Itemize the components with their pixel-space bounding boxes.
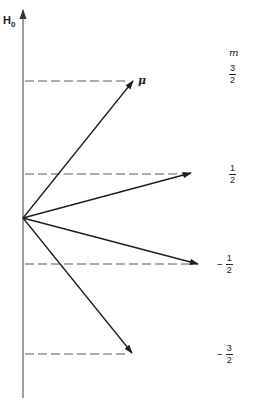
denominator: 2 <box>227 266 232 275</box>
m-value-neg-1-2: − 1 2 <box>217 254 233 275</box>
m-value-sign: − <box>217 349 223 360</box>
numerator: 1 <box>227 254 232 263</box>
numerator: 3 <box>227 344 232 353</box>
denominator: 2 <box>230 176 235 185</box>
fraction: 1 2 <box>226 254 233 275</box>
moment-vector-m-1-2 <box>23 173 191 218</box>
moment-vector-m-neg-3-2 <box>23 218 132 353</box>
denominator: 2 <box>230 76 235 85</box>
numerator: 1 <box>230 164 235 173</box>
m-value-3-2: 3 2 <box>226 64 236 85</box>
fraction: 3 2 <box>229 64 236 85</box>
m-quantum-number-header: m <box>229 47 238 58</box>
m-value-1-2: 1 2 <box>226 164 236 185</box>
angular-momentum-vector-diagram <box>0 0 258 403</box>
fraction: 1 2 <box>229 164 236 185</box>
moment-vector-m-neg-1-2 <box>23 218 198 264</box>
m-value-neg-3-2: − 3 2 <box>217 344 233 365</box>
field-axis-subscript: 0 <box>11 20 15 29</box>
numerator: 3 <box>230 64 235 73</box>
moment-vector-m-3-2 <box>23 81 133 218</box>
fraction: 3 2 <box>226 344 233 365</box>
m-value-sign: − <box>217 259 223 270</box>
field-axis-label: H0 <box>3 14 15 29</box>
magnetic-moment-label: μ <box>138 74 146 87</box>
denominator: 2 <box>227 356 232 365</box>
field-axis-letter: H <box>3 14 11 26</box>
